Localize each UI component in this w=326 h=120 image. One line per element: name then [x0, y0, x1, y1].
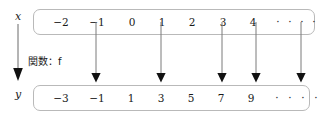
codomain-element: 1 — [128, 93, 135, 104]
codomain-ellipsis-dot: · — [301, 93, 304, 104]
function-annotation-label: 関数：f — [28, 53, 62, 68]
domain-set-box: −2−101234···· — [33, 9, 315, 35]
function-mapping-diagram: x y 関数：f −2−101234···· −3−113579···· — [0, 0, 326, 120]
codomain-ellipsis-dot: · — [275, 93, 278, 104]
domain-set-items: −2−101234···· — [34, 10, 314, 34]
domain-element: 2 — [189, 17, 196, 28]
domain-element: −2 — [53, 17, 68, 28]
domain-ellipsis-dot: · — [288, 17, 291, 28]
domain-element: 4 — [250, 17, 257, 28]
mapping-direction-arrow-icon — [11, 24, 25, 82]
codomain-element: 9 — [248, 93, 255, 104]
codomain-set-items: −3−113579···· — [34, 86, 309, 110]
codomain-set-box: −3−113579···· — [33, 85, 310, 111]
domain-ellipsis-dot: · — [312, 17, 315, 28]
domain-ellipsis-dot: · — [300, 17, 303, 28]
codomain-element: 5 — [188, 93, 195, 104]
codomain-element: −3 — [53, 93, 68, 104]
domain-ellipsis-dot: · — [276, 17, 279, 28]
codomain-element: 3 — [158, 93, 165, 104]
domain-element: −1 — [89, 17, 104, 28]
codomain-element: 7 — [218, 93, 225, 104]
codomain-ellipsis-dot: · — [314, 93, 317, 104]
codomain-variable-label: y — [10, 88, 26, 101]
domain-element: 1 — [159, 17, 166, 28]
domain-variable-label: x — [10, 10, 26, 23]
codomain-element: −1 — [89, 93, 104, 104]
codomain-ellipsis-dot: · — [288, 93, 291, 104]
domain-element: 3 — [220, 17, 227, 28]
domain-element: 0 — [129, 17, 136, 28]
